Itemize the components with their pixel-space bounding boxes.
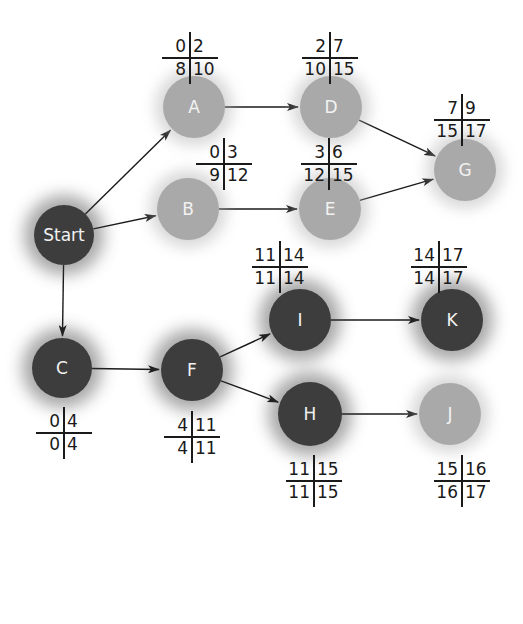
early-finish-value: 6	[330, 142, 359, 162]
schedule-table-D: 271015	[302, 36, 358, 80]
early-start-value: 0	[196, 142, 223, 162]
early-start-value: 11	[286, 459, 313, 479]
late-start-value: 10	[302, 59, 329, 79]
early-start-value: 7	[434, 98, 461, 118]
node-I: I	[269, 289, 331, 351]
late-finish-value: 10	[191, 59, 220, 79]
late-finish-value: 12	[225, 165, 254, 185]
node-label: E	[325, 199, 336, 219]
node-J: J	[419, 383, 481, 445]
late-start-value: 12	[301, 165, 328, 185]
late-start-value: 11	[252, 268, 279, 288]
node-C: C	[32, 338, 92, 398]
node-label: K	[446, 310, 457, 330]
node-A: A	[163, 76, 225, 138]
node-D: D	[300, 76, 362, 138]
node-label: A	[188, 97, 200, 117]
early-start-value: 11	[252, 245, 279, 265]
network-diagram: StartA02810D271015G791517B03912E361215I1…	[0, 0, 523, 624]
edge-arrow-C-F	[92, 368, 159, 369]
early-finish-value: 15	[315, 459, 344, 479]
node-label: D	[324, 97, 337, 117]
early-finish-value: 17	[440, 245, 469, 265]
node-label: J	[447, 404, 452, 424]
early-start-value: 0	[162, 36, 189, 56]
edge-arrow-F-I	[220, 334, 270, 357]
edge-arrow-D-G	[359, 120, 435, 156]
schedule-table-I: 11141114	[252, 245, 308, 289]
late-finish-value: 17	[463, 482, 492, 502]
early-finish-value: 14	[281, 245, 310, 265]
late-start-value: 9	[196, 165, 223, 185]
early-finish-value: 2	[191, 36, 220, 56]
node-label: I	[297, 310, 302, 330]
schedule-table-H: 11151115	[286, 459, 342, 503]
schedule-table-E: 361215	[301, 142, 357, 186]
late-finish-value: 11	[193, 438, 222, 458]
late-start-value: 8	[162, 59, 189, 79]
node-label: Start	[43, 225, 85, 245]
early-finish-value: 16	[463, 459, 492, 479]
schedule-table-J: 15161617	[434, 459, 490, 503]
late-start-value: 14	[411, 268, 438, 288]
schedule-table-C: 0404	[36, 411, 92, 455]
schedule-table-B: 03912	[196, 142, 252, 186]
schedule-table-G: 791517	[434, 98, 490, 142]
edge-arrow-start-C	[62, 265, 63, 336]
node-label: G	[458, 160, 471, 180]
node-G: G	[434, 139, 496, 201]
edge-arrow-E-G	[360, 179, 434, 200]
early-start-value: 2	[302, 36, 329, 56]
node-H: H	[278, 382, 342, 446]
late-start-value: 11	[286, 482, 313, 502]
early-finish-value: 3	[225, 142, 254, 162]
node-B: B	[157, 178, 219, 240]
early-start-value: 14	[411, 245, 438, 265]
schedule-table-F: 411411	[164, 415, 220, 459]
node-F: F	[161, 339, 223, 401]
early-finish-value: 4	[65, 411, 94, 431]
late-finish-value: 15	[331, 59, 360, 79]
schedule-table-A: 02810	[162, 36, 218, 80]
early-start-value: 15	[434, 459, 461, 479]
node-label: F	[187, 360, 197, 380]
schedule-table-K: 14171417	[411, 245, 467, 289]
node-E: E	[299, 178, 361, 240]
late-start-value: 16	[434, 482, 461, 502]
early-start-value: 4	[164, 415, 191, 435]
early-finish-value: 7	[331, 36, 360, 56]
late-start-value: 4	[164, 438, 191, 458]
late-finish-value: 17	[440, 268, 469, 288]
edge-arrow-F-H	[221, 381, 278, 402]
edge-arrow-start-B	[93, 216, 155, 229]
late-finish-value: 15	[315, 482, 344, 502]
early-finish-value: 9	[463, 98, 492, 118]
node-start: Start	[34, 205, 94, 265]
early-finish-value: 11	[193, 415, 222, 435]
node-label: H	[304, 404, 317, 424]
late-finish-value: 17	[463, 121, 492, 141]
early-start-value: 0	[36, 411, 63, 431]
late-finish-value: 14	[281, 268, 310, 288]
late-start-value: 0	[36, 434, 63, 454]
late-start-value: 15	[434, 121, 461, 141]
node-K: K	[421, 289, 483, 351]
early-start-value: 3	[301, 142, 328, 162]
node-label: C	[56, 358, 68, 378]
node-label: B	[182, 199, 194, 219]
late-finish-value: 4	[65, 434, 94, 454]
late-finish-value: 15	[330, 165, 359, 185]
